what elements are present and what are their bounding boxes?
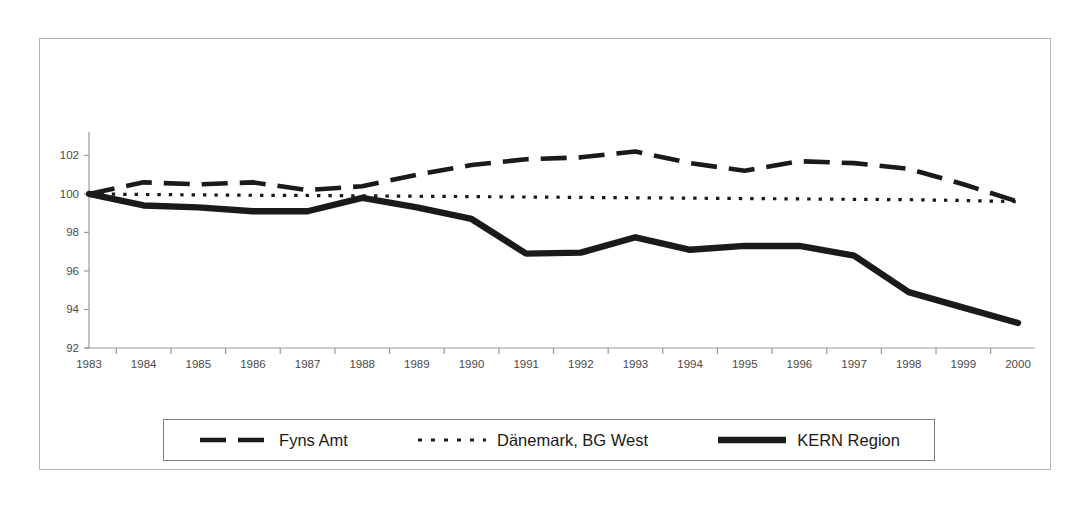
x-tick-label: 1983 (76, 358, 102, 370)
legend-line-solid-icon (716, 434, 788, 446)
legend-item-fyns-amt[interactable]: Fyns Amt (198, 431, 348, 450)
y-tick-label: 100 (60, 188, 79, 200)
x-tick-label: 1995 (732, 358, 758, 370)
y-tick-label: 98 (66, 226, 79, 238)
series-line-d-nemark-bg-west (89, 194, 1018, 202)
x-tick-label: 2000 (1005, 358, 1031, 370)
legend-label-danemark-bg-west: Dänemark, BG West (497, 431, 648, 450)
x-tick-label: 1987 (295, 358, 321, 370)
chart-page: 9294969810010219831984198519861987198819… (0, 0, 1092, 506)
x-tick-label: 1997 (841, 358, 867, 370)
legend-line-dashed-icon (198, 434, 270, 446)
x-tick-label: 1993 (623, 358, 649, 370)
x-tick-label: 1998 (896, 358, 922, 370)
x-tick-label: 1996 (787, 358, 813, 370)
x-tick-label: 1990 (459, 358, 485, 370)
y-tick-label: 102 (60, 149, 79, 161)
y-tick-label: 92 (66, 342, 79, 354)
legend-label-kern-region: KERN Region (797, 431, 900, 450)
x-tick-label: 1992 (568, 358, 594, 370)
legend-line-dotted-icon (416, 434, 488, 446)
x-tick-label: 1984 (131, 358, 157, 370)
y-tick-label: 94 (66, 303, 79, 315)
x-tick-label: 1994 (677, 358, 703, 370)
legend-label-fyns-amt: Fyns Amt (279, 431, 348, 450)
x-tick-label: 1988 (349, 358, 375, 370)
x-tick-label: 1985 (185, 358, 211, 370)
x-tick-label: 1999 (951, 358, 977, 370)
x-tick-label: 1986 (240, 358, 266, 370)
legend-item-danemark-bg-west[interactable]: Dänemark, BG West (416, 431, 648, 450)
legend-item-kern-region[interactable]: KERN Region (716, 431, 900, 450)
series-line-kern-region (89, 194, 1018, 323)
series-lines (89, 152, 1018, 323)
chart-legend: Fyns Amt Dänemark, BG West KERN Region (163, 419, 935, 461)
y-tick-label: 96 (66, 265, 79, 277)
x-tick-label: 1989 (404, 358, 430, 370)
x-tick-label: 1991 (513, 358, 539, 370)
